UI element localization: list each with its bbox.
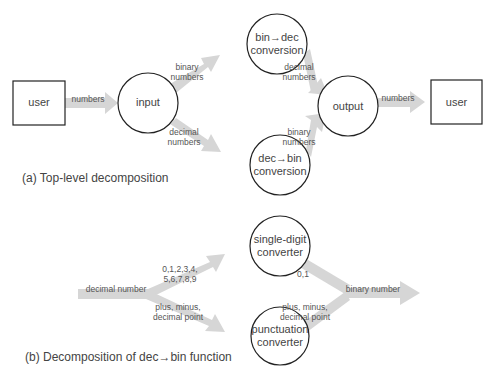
flow-label-digits-1: 0,1,2,3,4,: [156, 264, 204, 274]
punctuation-label-line2: converter: [246, 336, 314, 349]
nodes: [13, 14, 482, 365]
bindec-label-line1: bin→dec: [247, 31, 307, 44]
flow-label-decimal-number: decimal number: [82, 284, 150, 294]
flow-label-punct-out-2: decimal point: [276, 312, 334, 322]
caption-a: (a) Top-level decomposition: [22, 171, 169, 185]
single-digit-label-line2: converter: [248, 246, 312, 259]
flow-label-bindec-output: decimal numbers: [278, 62, 320, 82]
flow-label-input-decbin-2: numbers: [164, 137, 204, 147]
decbin-label: dec→bin conversion: [250, 152, 310, 178]
input-label: input: [118, 96, 178, 109]
flow-label-bindec-output-2: numbers: [278, 72, 320, 82]
bindec-label-line2: conversion: [247, 44, 307, 57]
flow-label-binary-number: binary number: [342, 284, 404, 294]
flow-label-user-input: numbers: [68, 94, 108, 104]
flow-label-input-bindec: binary numbers: [167, 62, 207, 82]
punctuation-label: punctuation converter: [246, 323, 314, 349]
flow-label-input-bindec-1: binary: [167, 62, 207, 72]
flow-label-punct-in-2: decimal point: [150, 312, 206, 322]
single-digit-label-line1: single-digit: [248, 233, 312, 246]
flow-label-decbin-output: binary numbers: [278, 127, 320, 147]
flow-label-input-bindec-2: numbers: [167, 72, 207, 82]
flow-label-decbin-output-2: numbers: [278, 137, 320, 147]
flow-label-punct-in: plus, minus, decimal point: [150, 302, 206, 322]
punctuation-label-line1: punctuation: [246, 323, 314, 336]
flow-label-decbin-output-1: binary: [278, 127, 320, 137]
decbin-label-line1: dec→bin: [250, 152, 310, 165]
flow-label-bindec-output-1: decimal: [278, 62, 320, 72]
output-label: output: [318, 100, 378, 113]
flow-label-digits-2: 5,6,7,8,9: [156, 274, 204, 284]
bindec-label: bin→dec conversion: [247, 31, 307, 57]
caption-b: (b) Decomposition of dec→bin function: [25, 350, 232, 364]
decbin-label-line2: conversion: [250, 165, 310, 178]
flow-label-binary-digits: 0,1: [292, 269, 314, 279]
single-digit-label: single-digit converter: [248, 233, 312, 259]
flow-label-input-decbin: decimal numbers: [164, 127, 204, 147]
user-right-label: user: [431, 96, 482, 109]
user-left-label: user: [13, 96, 65, 109]
flow-label-punct-out: plus, minus, decimal point: [276, 302, 334, 322]
flow-label-punct-out-1: plus, minus,: [276, 302, 334, 312]
flow-label-digits: 0,1,2,3,4, 5,6,7,8,9: [156, 264, 204, 284]
flow-label-input-decbin-1: decimal: [164, 127, 204, 137]
flow-label-punct-in-1: plus, minus,: [150, 302, 206, 312]
flow-label-output-user: numbers: [378, 93, 418, 103]
